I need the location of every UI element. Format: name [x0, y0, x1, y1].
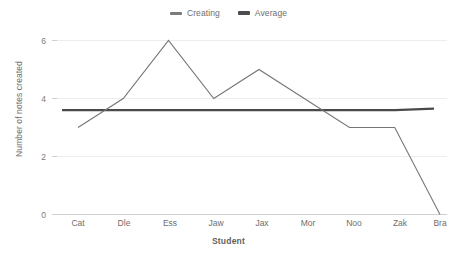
line-chart: Creating Average Number of notes created [0, 0, 457, 261]
x-tick-label-dle: Dle [118, 218, 131, 228]
x-axis-tick-labels: Cat Dle Ess Jaw Jax Mor Noo Zak Bra [71, 218, 447, 228]
x-tick-label-jax: Jax [255, 218, 269, 228]
y-axis-ticks [52, 41, 57, 215]
y-axis-tick-labels: 6 4 2 0 [41, 36, 46, 220]
series-line-creating [78, 41, 440, 215]
plot-area: 6 4 2 0 Cat Dle Ess Jaw Jax Mor Noo Zak … [0, 0, 457, 261]
x-tick-label-ess: Ess [163, 218, 177, 228]
series-line-average [62, 109, 434, 110]
y-tick-label-6: 6 [41, 36, 46, 46]
x-tick-label-bra: Bra [433, 218, 447, 228]
y-tick-label-0: 0 [41, 210, 46, 220]
x-tick-label-noo: Noo [346, 218, 362, 228]
x-axis-title: Student [0, 236, 457, 246]
y-tick-label-2: 2 [41, 152, 46, 162]
x-tick-label-zak: Zak [393, 218, 408, 228]
x-tick-label-cat: Cat [71, 218, 85, 228]
y-tick-label-4: 4 [41, 94, 46, 104]
data-series [62, 41, 440, 215]
x-tick-label-mor: Mor [301, 218, 316, 228]
x-tick-label-jaw: Jaw [208, 218, 224, 228]
